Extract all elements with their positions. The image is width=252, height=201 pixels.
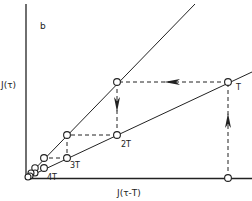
y-axis-label: J(τ) <box>0 80 16 90</box>
panel-label: b <box>40 21 46 31</box>
map-line <box>26 72 252 178</box>
point-label-2T: 2T <box>121 140 131 149</box>
point-label-3T: 3T <box>70 161 80 170</box>
cobweb-diagram: b J(τ) J(τ-T) T 2T 3T 4T <box>0 0 252 201</box>
x-axis-label: J(τ-T) <box>116 188 141 198</box>
point-label-4T: 4T <box>47 173 57 182</box>
identity-diagonal-line <box>26 4 195 178</box>
point-label-T: T <box>235 83 241 92</box>
